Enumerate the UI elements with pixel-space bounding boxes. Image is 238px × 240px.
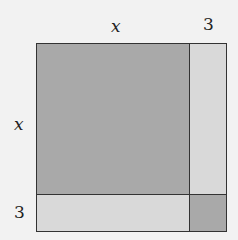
left-3-label: 3 bbox=[14, 204, 25, 221]
top-3-label: 3 bbox=[203, 16, 214, 33]
corner-square-region bbox=[189, 194, 227, 232]
bottom-strip-region bbox=[36, 194, 191, 232]
left-x-label: x bbox=[14, 116, 24, 133]
right-strip-region bbox=[189, 43, 227, 196]
x-squared-region bbox=[36, 43, 191, 196]
top-x-label: x bbox=[111, 18, 121, 35]
